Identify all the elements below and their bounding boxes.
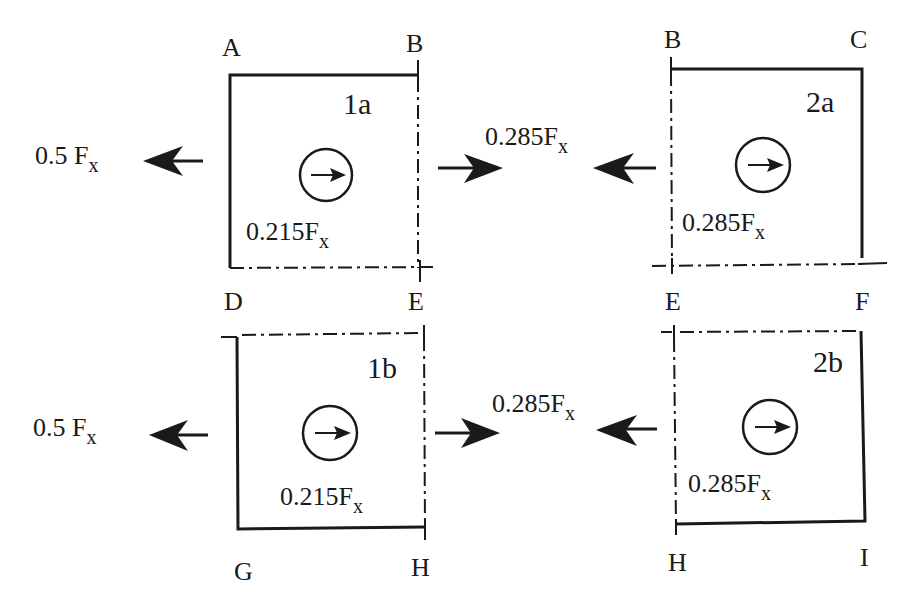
moment-icon-1a xyxy=(300,149,352,201)
panel-1b-dashdot-right xyxy=(424,337,425,528)
panel-1a: A B D E 1a 0.215Fx 0.5 Fx xyxy=(35,29,503,316)
interface-force-label-bottom: 0.285Fx xyxy=(492,389,575,424)
panel-id-2b: 2b xyxy=(813,345,843,378)
panel-2a: B C E F 2a 0.285Fx xyxy=(593,25,887,316)
moment-icon-2b xyxy=(743,400,797,454)
corner-label-e-2a: E xyxy=(665,287,681,316)
corner-label-a: A xyxy=(222,33,241,62)
moment-icon-2a xyxy=(736,138,790,192)
internal-force-1b: 0.215Fx xyxy=(280,482,363,517)
panel-id-2a: 2a xyxy=(806,85,834,118)
internal-force-1a: 0.215Fx xyxy=(246,217,329,252)
panel-2a-dashdot-bottom xyxy=(652,264,862,266)
panel-id-1a: 1a xyxy=(343,87,371,120)
corner-label-b-2a: B xyxy=(664,25,681,54)
panel-2b: H I 2b 0.285Fx xyxy=(596,325,869,577)
corner-label-c: C xyxy=(850,25,867,54)
external-force-label-1a: 0.5 Fx xyxy=(35,141,98,176)
panel-2b-dashdot-top xyxy=(680,331,860,332)
force-distribution-diagram: A B D E 1a 0.215Fx 0.5 Fx xyxy=(0,0,903,600)
corner-label-i: I xyxy=(860,543,869,572)
arrow-right-icon-1b xyxy=(435,418,500,448)
arrow-left-icon-2a xyxy=(593,153,656,184)
corner-label-f: F xyxy=(855,287,869,316)
panel-1a-dashdot-bottom xyxy=(230,267,435,268)
corner-label-b: B xyxy=(406,29,423,58)
arrow-left-icon-1a xyxy=(143,146,203,176)
corner-label-e: E xyxy=(408,287,424,316)
panel-2a-dashdot-left xyxy=(671,72,672,265)
panel-1b: G H 1b 0.215Fx 0.5 Fx xyxy=(33,325,500,586)
panel-2a-bottom-extension xyxy=(858,263,887,264)
corner-label-h: H xyxy=(411,553,430,582)
internal-force-2b: 0.285Fx xyxy=(688,469,771,504)
arrow-left-icon-1b xyxy=(149,420,208,451)
panel-1b-dashdot-top xyxy=(242,333,425,335)
corner-label-h-2b: H xyxy=(668,548,687,577)
panel-2b-dashdot-left xyxy=(674,338,676,524)
internal-force-2a: 0.285Fx xyxy=(682,208,765,243)
panel-id-1b: 1b xyxy=(367,351,397,384)
arrow-right-icon-1a xyxy=(438,154,503,183)
arrow-left-icon-2b xyxy=(596,415,657,446)
moment-icon-1b xyxy=(303,406,357,460)
corner-label-g: G xyxy=(234,557,253,586)
interface-force-label-top: 0.285Fx xyxy=(485,122,568,157)
corner-label-d: D xyxy=(224,287,243,316)
external-force-label-1b: 0.5 Fx xyxy=(33,413,96,448)
